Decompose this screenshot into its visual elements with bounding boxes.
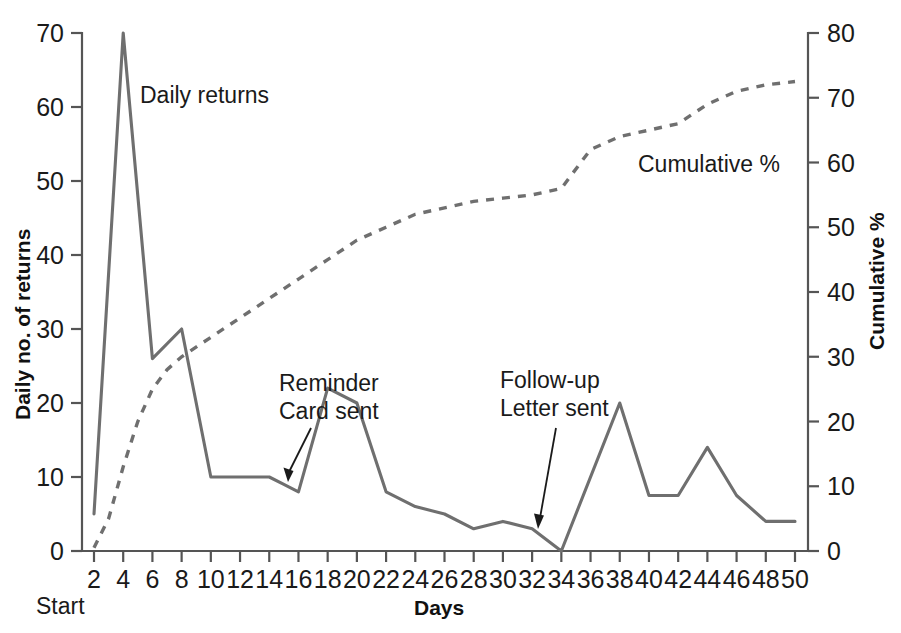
annotation-follow-up-letter-leader-line [540, 428, 556, 518]
x-axis-tick-label: 40 [635, 565, 663, 593]
left-axis-tick-label: 40 [36, 241, 64, 269]
right-axis-tick-label: 10 [827, 472, 855, 500]
x-axis-tick-label: 18 [314, 565, 342, 593]
right-axis-tick-label: 30 [827, 343, 855, 371]
right-axis-ticks [808, 33, 819, 551]
x-axis-tick-label: 4 [116, 565, 130, 593]
left-axis-tick-label: 70 [36, 19, 64, 47]
x-axis-start-label: Start [36, 593, 85, 619]
bottom-axis-tick-labels: 2468101214161820222426283032343638404244… [87, 565, 809, 593]
right-axis-tick-labels: 01020304050607080 [827, 19, 855, 565]
y-axis-title: Daily no. of returns [11, 229, 34, 420]
annotation-follow-up-letter-line1: Follow-up [500, 367, 600, 393]
left-axis: 010203040506070 [36, 19, 82, 565]
chart-canvas: 010203040506070 246810121416182022242628… [0, 0, 901, 633]
x-axis-tick-label: 30 [489, 565, 517, 593]
x-axis-title: Days [414, 596, 464, 619]
x-axis-tick-label: 46 [723, 565, 751, 593]
right-axis: 01020304050607080 [808, 19, 855, 565]
annotation-reminder-card-leader-line [289, 428, 311, 472]
right-axis-tick-label: 40 [827, 278, 855, 306]
left-axis-ticks [71, 33, 82, 551]
left-axis-tick-labels: 010203040506070 [36, 19, 64, 565]
annotation-reminder-card-line1: Reminder [279, 370, 379, 396]
left-axis-tick-label: 30 [36, 315, 64, 343]
series-line-daily-returns [94, 33, 795, 551]
x-axis-tick-label: 42 [664, 565, 692, 593]
left-axis-tick-label: 10 [36, 463, 64, 491]
x-axis-tick-label: 8 [175, 565, 189, 593]
chart-figure: 010203040506070 246810121416182022242628… [0, 0, 901, 633]
x-axis-tick-label: 38 [606, 565, 634, 593]
x-axis-tick-label: 48 [752, 565, 780, 593]
x-axis-tick-label: 32 [518, 565, 546, 593]
series-label-daily-returns: Daily returns [140, 82, 269, 108]
annotation-reminder-card-line2: Card sent [279, 398, 379, 424]
left-axis-tick-label: 0 [50, 537, 64, 565]
x-axis-tick-label: 26 [431, 565, 459, 593]
x-axis-tick-label: 22 [372, 565, 400, 593]
x-axis-tick-label: 24 [401, 565, 429, 593]
right-axis-tick-label: 70 [827, 84, 855, 112]
x-axis-tick-label: 10 [197, 565, 225, 593]
bottom-axis-ticks [94, 551, 795, 562]
x-axis-tick-label: 34 [547, 565, 575, 593]
right-axis-tick-label: 0 [827, 537, 841, 565]
y2-axis-title: Cumulative % [865, 212, 888, 350]
right-axis-tick-label: 50 [827, 213, 855, 241]
x-axis-tick-label: 20 [343, 565, 371, 593]
annotation-follow-up-letter-line2: Letter sent [500, 395, 609, 421]
left-axis-tick-label: 60 [36, 93, 64, 121]
left-axis-tick-label: 20 [36, 389, 64, 417]
right-axis-tick-label: 60 [827, 149, 855, 177]
annotation-follow-up-letter: Follow-up Letter sent [500, 367, 609, 529]
x-axis-tick-label: 6 [145, 565, 159, 593]
right-axis-tick-label: 80 [827, 19, 855, 47]
annotation-reminder-card-arrowhead [284, 468, 294, 483]
left-axis-tick-label: 50 [36, 167, 64, 195]
annotation-follow-up-letter-arrowhead [534, 514, 544, 530]
x-axis-tick-label: 14 [255, 565, 283, 593]
x-axis-tick-label: 28 [460, 565, 488, 593]
series-label-cumulative-percent: Cumulative % [638, 151, 780, 177]
x-axis-tick-label: 2 [87, 565, 101, 593]
x-axis-tick-label: 36 [577, 565, 605, 593]
bottom-axis: 2468101214161820222426283032343638404244… [82, 551, 809, 593]
x-axis-tick-label: 16 [285, 565, 313, 593]
right-axis-tick-label: 20 [827, 408, 855, 436]
x-axis-tick-label: 50 [781, 565, 809, 593]
x-axis-tick-label: 12 [226, 565, 254, 593]
x-axis-tick-label: 44 [693, 565, 721, 593]
